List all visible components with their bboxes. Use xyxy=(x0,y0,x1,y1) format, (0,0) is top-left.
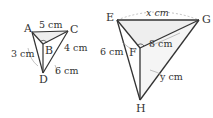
vertex-label-b: B xyxy=(45,44,53,57)
vertex-label-e: E xyxy=(106,11,114,24)
vertex-label-g: G xyxy=(202,13,211,26)
diagram-canvas: A C B D 5 cm 3 cm 4 cm 6 cm E G F H x cm… xyxy=(0,0,213,118)
length-label-ad: 3 cm xyxy=(11,48,34,59)
length-label-ac: 5 cm xyxy=(39,19,62,30)
length-label-gh: y cm xyxy=(159,71,183,82)
length-label-cd: 4 cm xyxy=(64,42,87,53)
length-label-ef: 6 cm xyxy=(100,46,123,57)
length-label-fg: 8 cm xyxy=(149,38,172,49)
vertex-label-c: C xyxy=(70,23,78,36)
vertex-label-d: D xyxy=(39,73,48,86)
length-label-bd: 6 cm xyxy=(55,65,78,76)
vertex-label-a: A xyxy=(23,22,33,35)
vertex-label-h: H xyxy=(136,102,146,115)
length-label-eg: x cm xyxy=(146,7,169,18)
vertex-label-f: F xyxy=(129,46,137,59)
